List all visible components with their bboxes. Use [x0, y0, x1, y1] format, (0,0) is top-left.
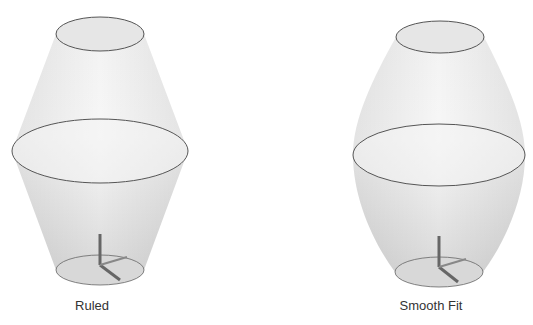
- ruled-label: Ruled: [75, 298, 109, 313]
- ruled-loft-shape: [12, 17, 188, 285]
- loft-diagram: [0, 0, 533, 325]
- smooth-fit-label: Smooth Fit: [400, 298, 463, 313]
- top-profile: [56, 17, 144, 51]
- middle-profile: [12, 119, 188, 183]
- smooth-loft-shape: [353, 21, 525, 287]
- middle-profile: [353, 124, 525, 186]
- top-profile: [396, 21, 484, 53]
